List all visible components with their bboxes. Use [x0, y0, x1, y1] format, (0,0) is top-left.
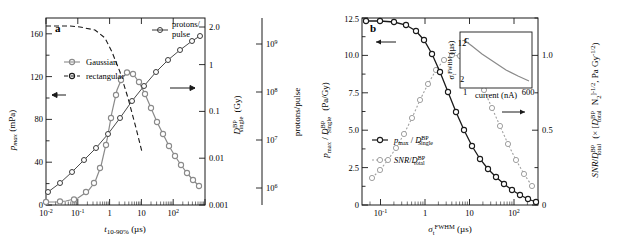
panel-b-xtick-4: 102 [508, 208, 520, 218]
panel-a-arrow-left-head [52, 93, 57, 98]
panel-c-ytick-12: 12 [458, 38, 467, 48]
panel-b-ylabel-left: pmax / DBPSingle (Pa/Gy) [319, 82, 332, 159]
panel-b-svg: 0 2.5 5.0 7.5 10.0 12.5 pmax / DBPSingle… [310, 0, 619, 242]
panel-b-xtick-2: 1 [423, 208, 427, 218]
panel-a-midtick-3: 1 [209, 60, 213, 70]
panel-b-ytick-100: 10.0 [344, 50, 359, 60]
panel-c-xlabel: current (nA) [475, 90, 517, 100]
panel-a-xtick-4: 10 [137, 208, 146, 218]
legend-marker-pmax [377, 137, 382, 142]
panel-b-xtick-1: 10-1 [374, 208, 388, 218]
panel-c-inset: c 12 2 1 600 current (nA) σtFWHM (µs) [446, 32, 534, 100]
panel-a-ytick-160: 160 [30, 29, 43, 39]
panel-b-ytick-0: 0 [355, 200, 359, 210]
panel-a-midtick-2: 0.1 [209, 106, 220, 116]
panel-a-midtick-0: 0.001 [209, 200, 228, 210]
panel-c-ytick-2: 2 [460, 74, 464, 84]
panel-b-righttick-10: 1.0 [542, 50, 553, 60]
panel-a-righttick-2: 108 [266, 87, 278, 97]
panel-a-midtick-1: 0.01 [209, 153, 224, 163]
panel-b-xticks-minor [370, 202, 535, 206]
panel-a-xlabel: t10-90% (µs) [104, 224, 146, 236]
panel-a-right-yticks [256, 44, 262, 188]
panel-c-xtick-1: 1 [463, 87, 467, 97]
panel-a-xtick-2: 10-1 [71, 208, 85, 218]
panel-a-ylabel-left: pmax (mPa) [7, 110, 19, 151]
legend-label-rectangular: rectangular [86, 71, 124, 81]
panel-a-ylabel-right: protons/pulse [292, 88, 302, 137]
panel-b-righttick-05: 0.5 [542, 125, 553, 135]
panel-b: 0 2.5 5.0 7.5 10.0 12.5 pmax / DBPSingle… [310, 0, 619, 242]
panel-a-xticks [46, 18, 205, 205]
panel-b-left-yticks [362, 18, 368, 205]
panel-a-series-protons-markers [46, 34, 203, 195]
legend-label-protons-1: protons/ [172, 19, 201, 29]
panel-c-ylabel: σtFWHM (µs) [446, 40, 457, 79]
panel-b-ylabel-right: SNR/DBPtotal (× [DBPtotal N2]-1/2, Pa Gy… [589, 42, 602, 177]
panel-a-series-rectangular [46, 26, 142, 152]
panel-b-arrow-left-head [376, 40, 381, 45]
panel-b-ytick-75: 7.5 [348, 88, 359, 98]
panel-b-arrow-right-head [520, 110, 525, 115]
panel-a-ylabel-mid: DBPsingle (Gy) [231, 95, 244, 135]
panel-b-xlabel: σtFWHM (µs) [428, 223, 471, 236]
panel-a-frame [46, 18, 205, 205]
panel-a-mid-yticks [199, 27, 205, 205]
panel-a-xtick-5: 102 [167, 208, 179, 218]
panel-a-ytick-40: 40 [35, 157, 44, 167]
panel-a-xtick-1: 10-2 [39, 208, 53, 218]
panel-a-righttick-1: 107 [266, 135, 278, 145]
legend-label-gaussian: Gaussian [86, 57, 118, 67]
panel-a-series-gaussian-markers [43, 70, 201, 205]
figure-root: 0 40 80 120 160 pmax (mPa) [0, 0, 619, 242]
panel-b-xtick-3: 10 [465, 208, 474, 218]
panel-c-frame [460, 32, 532, 88]
panel-c-xtick-600: 600 [522, 87, 535, 97]
panel-b-ytick-125: 12.5 [344, 14, 359, 24]
panel-a-xtick-3: 1 [107, 208, 111, 218]
panel-b-legend: pmax / DBPSingle SNR/DBPtotal [372, 135, 433, 166]
panel-a-svg: 0 40 80 120 160 pmax (mPa) [0, 0, 310, 242]
panel-b-letter: b [370, 22, 376, 34]
legend-label-pmax: pmax / DBPSingle [393, 135, 433, 146]
panel-b-ytick-50: 5.0 [348, 125, 359, 135]
legend-label-protons-2: pulse [172, 29, 190, 39]
legend-label-snr: SNR/DBPtotal [394, 155, 426, 166]
panel-a-series-gaussian-line [46, 72, 199, 202]
panel-a: 0 40 80 120 160 pmax (mPa) [0, 0, 310, 242]
panel-a-ytick-120: 120 [30, 72, 43, 82]
panel-a-midtick-4: 2.0 [209, 22, 220, 32]
panel-a-righttick-0: 106 [266, 183, 278, 193]
panel-b-ytick-25: 2.5 [348, 163, 359, 173]
panel-a-left-yticks [46, 34, 52, 205]
panel-a-arrows [52, 86, 195, 98]
panel-a-ytick-80: 80 [35, 114, 44, 124]
panel-a-arrow-right-head [190, 86, 195, 91]
panel-a-righttick-3: 109 [266, 39, 278, 49]
panel-b-right-yticks [532, 18, 538, 205]
legend-marker-snr [377, 157, 382, 162]
panel-b-righttick-0: 0 [542, 200, 546, 210]
panel-a-letter: a [55, 22, 61, 34]
